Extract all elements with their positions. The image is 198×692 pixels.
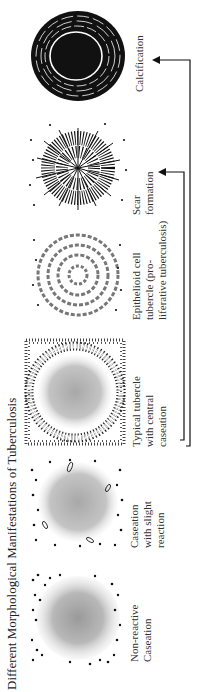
label-non-reactive-caseation: Non-reactive Caseation xyxy=(128,605,154,662)
arrow-to-scar-icon xyxy=(158,168,166,176)
arrowheads xyxy=(152,56,166,176)
typical-tubercle-figure xyxy=(24,338,126,446)
epithelioid-cell-tubercle-figure xyxy=(32,235,122,315)
scar-formation-figure xyxy=(29,123,127,210)
label-calcification: Calcification xyxy=(133,35,146,92)
diagram-illustrations xyxy=(0,0,198,692)
label-epithelioid-cell-tubercle: Epithelioid cell tubercle (pro- liferati… xyxy=(130,221,169,320)
arrow-to-calcification-icon xyxy=(152,56,160,64)
caseation-slight-reaction-figure xyxy=(31,459,124,547)
non-reactive-caseation-figure xyxy=(31,574,121,666)
label-caseation-slight-reaction: Caseation with slight reaction xyxy=(128,501,167,548)
label-scar-formation: Scar formation xyxy=(130,172,156,215)
label-typical-tubercle: Typical tubercle with central caseation xyxy=(130,376,169,447)
calcification-figure xyxy=(31,11,125,101)
